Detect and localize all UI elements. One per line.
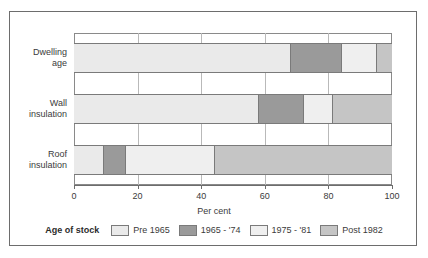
x-axis-tick-label: 80	[308, 191, 348, 201]
bar-row	[74, 43, 392, 73]
bar-segment	[74, 146, 103, 174]
category-label-line: age	[0, 58, 67, 69]
chart-figure: DwellingageWallinsulationRoofinsulation …	[9, 11, 417, 246]
bar-segment	[74, 95, 258, 123]
legend-items: Pre 19651965 - '741975 - '81Post 1982	[111, 225, 383, 236]
bar-segment	[303, 95, 332, 123]
x-axis-tick-label: 0	[54, 191, 94, 201]
category-label: Wallinsulation	[0, 98, 67, 120]
legend-label: 1975 - '81	[272, 225, 312, 235]
x-axis-tick	[201, 185, 202, 189]
legend-item[interactable]: 1975 - '81	[250, 225, 312, 236]
category-label-line: insulation	[0, 109, 67, 120]
bar-segment	[74, 44, 290, 72]
bar-segment	[376, 44, 392, 72]
legend-swatch	[320, 225, 338, 236]
legend-swatch	[250, 225, 268, 236]
legend-title: Age of stock	[45, 225, 99, 235]
category-label-line: Wall	[0, 98, 67, 109]
bar-segment	[214, 146, 392, 174]
category-label-line: Roof	[0, 149, 67, 160]
bar-segment	[258, 95, 303, 123]
category-label-line: insulation	[0, 160, 67, 171]
legend-item[interactable]: 1965 - '74	[179, 225, 241, 236]
legend-label: 1965 - '74	[201, 225, 241, 235]
legend: Age of stock Pre 19651965 - '741975 - '8…	[10, 220, 418, 240]
x-axis-tick	[328, 185, 329, 189]
bar-row	[74, 145, 392, 175]
legend-swatch	[179, 225, 197, 236]
bar-segment	[103, 146, 125, 174]
x-axis-tick-label: 40	[181, 191, 221, 201]
x-axis-tick-label: 60	[245, 191, 285, 201]
x-axis-line	[74, 185, 393, 186]
x-axis-tick-label: 100	[372, 191, 412, 201]
x-axis-tick	[138, 185, 139, 189]
x-axis-tick-label: 20	[118, 191, 158, 201]
category-label: Dwellingage	[0, 47, 67, 69]
category-label: Roofinsulation	[0, 149, 67, 171]
legend-item[interactable]: Pre 1965	[111, 225, 170, 236]
x-axis-title: Per cent	[10, 206, 418, 216]
legend-label: Pre 1965	[133, 225, 170, 235]
bar-segment	[332, 95, 392, 123]
legend-item[interactable]: Post 1982	[320, 225, 383, 236]
legend-label: Post 1982	[342, 225, 383, 235]
bar-segment	[290, 44, 341, 72]
x-axis-tick	[392, 185, 393, 189]
category-label-line: Dwelling	[0, 47, 67, 58]
plot-area	[74, 33, 392, 185]
bar-segment	[125, 146, 214, 174]
bar-segment	[341, 44, 376, 72]
legend-swatch	[111, 225, 129, 236]
x-axis-tick	[265, 185, 266, 189]
bar-row	[74, 94, 392, 124]
x-axis-tick	[74, 185, 75, 189]
